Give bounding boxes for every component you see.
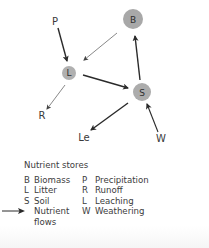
legend-flows-column: P Precipitation R Runoff L Leaching W We… bbox=[82, 175, 149, 228]
legend-flow-leaching: L Leaching bbox=[82, 196, 149, 207]
label-runoff: R bbox=[39, 110, 46, 121]
legend-flow-runoff: R Runoff bbox=[82, 185, 149, 196]
legend-flow-weathering: W Weathering bbox=[82, 206, 149, 217]
svg-text:B: B bbox=[130, 15, 136, 25]
arrow-right-icon bbox=[2, 207, 26, 215]
legend-stores-column: B Biomass L Litter S Soil Nutrient flows bbox=[24, 175, 82, 228]
label-leaching: Le bbox=[78, 132, 90, 143]
flow-arrow-w-to-s bbox=[147, 104, 158, 132]
svg-text:S: S bbox=[139, 88, 145, 98]
flow-arrow-s-to-b bbox=[135, 36, 140, 80]
background-fade bbox=[0, 226, 209, 248]
legend-store-soil: S Soil bbox=[24, 196, 82, 207]
node-biomass: B bbox=[123, 9, 143, 29]
flow-arrow-s-to-le bbox=[91, 103, 128, 130]
node-litter: L bbox=[62, 66, 76, 80]
node-soil: S bbox=[133, 83, 151, 101]
nutrient-cycle-diagram: B L S P R Le W bbox=[0, 0, 209, 150]
label-precipitation: P bbox=[52, 16, 58, 27]
legend-nutrient-flows: Nutrient flows bbox=[24, 206, 82, 227]
legend: Nutrient stores B Biomass L Litter S Soi… bbox=[24, 160, 209, 228]
legend-store-litter: L Litter bbox=[24, 185, 82, 196]
label-weathering: W bbox=[156, 133, 166, 144]
svg-text:L: L bbox=[66, 68, 71, 78]
flow-arrow-l-to-r bbox=[47, 85, 65, 109]
legend-title: Nutrient stores bbox=[24, 160, 209, 171]
legend-store-biomass: B Biomass bbox=[24, 175, 82, 186]
legend-flow-precipitation: P Precipitation bbox=[82, 175, 149, 186]
flow-arrow-l-to-s bbox=[83, 75, 128, 88]
flow-arrow-b-to-l bbox=[84, 33, 117, 60]
flow-arrow-p-to-l bbox=[58, 28, 67, 61]
